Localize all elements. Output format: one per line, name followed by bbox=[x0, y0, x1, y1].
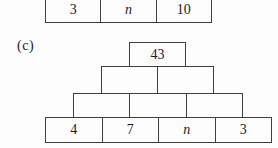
empty-cell bbox=[157, 66, 214, 94]
number-cell: 7 bbox=[102, 117, 160, 143]
worksheet-figure: 3 n 10 (c) 43 4 7 n 3 bbox=[0, 0, 278, 148]
variable-cell: n bbox=[158, 117, 216, 143]
empty-cell bbox=[101, 66, 158, 94]
previous-pyramid-bottom-row: 3 n 10 bbox=[45, 0, 212, 23]
empty-cell bbox=[73, 93, 130, 118]
pyramid-row-2 bbox=[101, 66, 214, 94]
pyramid-row-3 bbox=[73, 93, 243, 118]
number-cell: 10 bbox=[156, 0, 212, 23]
empty-cell bbox=[186, 93, 243, 118]
variable-cell: n bbox=[100, 0, 156, 23]
empty-cell bbox=[129, 93, 186, 118]
number-cell: 43 bbox=[129, 42, 186, 67]
number-cell: 3 bbox=[215, 117, 273, 143]
part-label-c: (c) bbox=[17, 38, 34, 54]
pyramid-row-1: 43 bbox=[129, 42, 186, 67]
pyramid-row-4: 4 7 n 3 bbox=[45, 117, 272, 143]
number-cell: 4 bbox=[45, 117, 103, 143]
number-cell: 3 bbox=[45, 0, 101, 23]
